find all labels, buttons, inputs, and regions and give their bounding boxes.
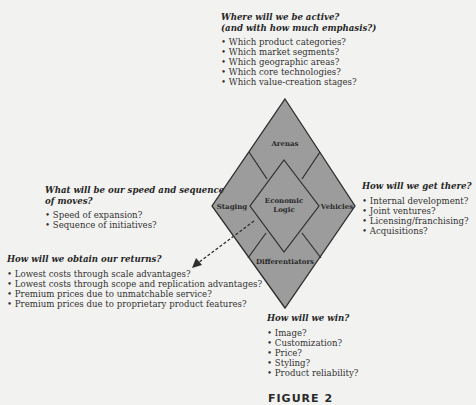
staging-block: What will be our speed and sequence of m… bbox=[45, 185, 224, 230]
list-item: Image? bbox=[267, 328, 358, 338]
label-differentiators: Differentiators bbox=[256, 257, 314, 266]
differentiators-block: How will we win? Image? Customization? P… bbox=[267, 313, 358, 378]
staging-list: Speed of expansion? Sequence of initiati… bbox=[45, 210, 224, 230]
label-economic: Economic bbox=[265, 196, 303, 205]
list-item: Premium prices due to unmatchable servic… bbox=[7, 289, 262, 299]
economic-logic-question: How will we obtain our returns? bbox=[7, 254, 262, 265]
list-item: Price? bbox=[267, 348, 358, 358]
list-item: Customization? bbox=[267, 338, 358, 348]
list-item: Which core technologies? bbox=[221, 67, 376, 77]
list-item: Lowest costs through scope and replicati… bbox=[7, 279, 262, 289]
list-item: Product reliability? bbox=[267, 368, 358, 378]
arenas-list: Which product categories? Which market s… bbox=[221, 37, 376, 87]
differentiators-list: Image? Customization? Price? Styling? Pr… bbox=[267, 328, 358, 378]
arenas-question-2: (and with how much emphasis?) bbox=[221, 23, 376, 34]
list-item: Acquisitions? bbox=[362, 226, 471, 236]
list-item: Joint ventures? bbox=[362, 206, 471, 216]
vehicles-question: How will we get there? bbox=[362, 181, 471, 192]
staging-question-2: of moves? bbox=[45, 196, 224, 207]
list-item: Which value-creation stages? bbox=[221, 77, 376, 87]
arenas-block: Where will we be active? (and with how m… bbox=[221, 12, 376, 87]
list-item: Internal development? bbox=[362, 196, 471, 206]
list-item: Premium prices due to proprietary produc… bbox=[7, 299, 262, 309]
list-item: Speed of expansion? bbox=[45, 210, 224, 220]
differentiators-question: How will we win? bbox=[267, 313, 358, 324]
economic-logic-block: How will we obtain our returns? Lowest c… bbox=[7, 254, 262, 309]
label-vehicles: Vehicles bbox=[320, 202, 353, 211]
economic-logic-list: Lowest costs through scale advantages? L… bbox=[7, 269, 262, 309]
vehicles-list: Internal development? Joint ventures? Li… bbox=[362, 196, 471, 236]
vehicles-block: How will we get there? Internal developm… bbox=[362, 181, 471, 236]
list-item: Licensing/franchising? bbox=[362, 216, 471, 226]
staging-question-1: What will be our speed and sequence bbox=[45, 185, 224, 196]
list-item: Which geographic areas? bbox=[221, 57, 376, 67]
label-arenas: Arenas bbox=[270, 139, 298, 148]
list-item: Lowest costs through scale advantages? bbox=[7, 269, 262, 279]
label-logic: Logic bbox=[273, 205, 294, 214]
list-item: Which market segments? bbox=[221, 47, 376, 57]
figure-label: FIGURE 2 bbox=[268, 392, 333, 405]
list-item: Styling? bbox=[267, 358, 358, 368]
list-item: Which product categories? bbox=[221, 37, 376, 47]
list-item: Sequence of initiatives? bbox=[45, 220, 224, 230]
arenas-question-1: Where will we be active? bbox=[221, 12, 376, 23]
